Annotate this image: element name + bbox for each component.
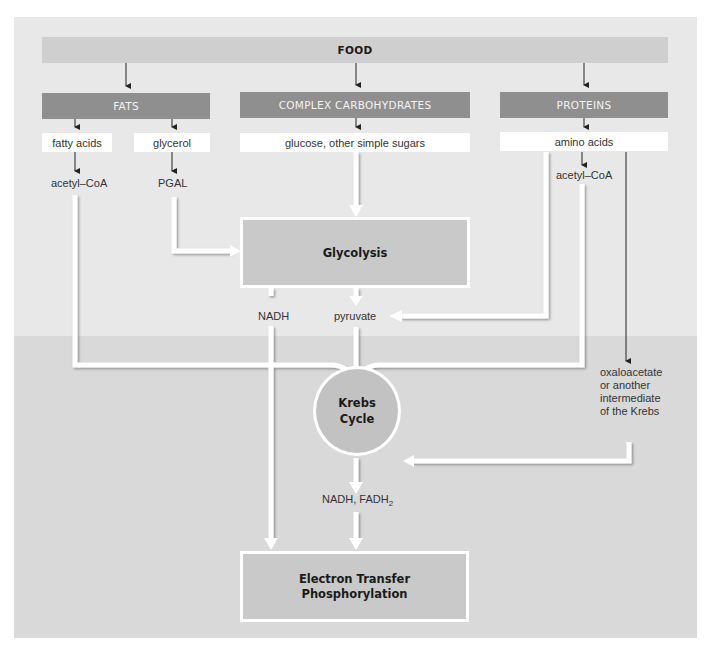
amino-acids-box: amino acids <box>500 132 668 151</box>
fat-acetyl-coa-label: acetyl–CoA <box>51 177 107 189</box>
glycerol-box: glycerol <box>134 133 210 152</box>
nadh-fadh2-label: NADH, FADH2 <box>322 493 393 508</box>
food-bar: FOOD <box>42 37 668 63</box>
pgal-label: PGAL <box>158 177 187 189</box>
oxaloacetate-line-1: oxaloacetate <box>600 366 662 379</box>
etp-label-line-1: Electron Transfer <box>299 572 410 587</box>
fats-category: FATS <box>42 93 210 119</box>
glycolysis-box: Glycolysis <box>240 217 470 288</box>
oxaloacetate-line-2: or another <box>600 379 662 392</box>
etp-label-line-2: Phosphorylation <box>301 587 407 602</box>
pyruvate-label: pyruvate <box>334 310 376 322</box>
fatty-acids-box: fatty acids <box>42 133 112 152</box>
oxaloacetate-line-4: of the Krebs <box>600 405 662 418</box>
krebs-label-line-2: Cycle <box>340 411 375 427</box>
oxaloacetate-label: oxaloacetate or another intermediate of … <box>600 366 662 418</box>
electron-transfer-phosphorylation-box: Electron Transfer Phosphorylation <box>240 551 469 622</box>
nadh-label: NADH <box>258 310 289 322</box>
white-arrows <box>75 152 629 540</box>
krebs-cycle-circle: Krebs Cycle <box>313 366 401 456</box>
simple-sugars-box: glucose, other simple sugars <box>240 133 470 152</box>
krebs-label-line-1: Krebs <box>338 395 375 411</box>
complex-carbohydrates-category: COMPLEX CARBOHYDRATES <box>240 92 470 118</box>
oxaloacetate-line-3: intermediate <box>600 392 662 405</box>
protein-acetyl-coa-label: acetyl–CoA <box>556 169 612 181</box>
nadh-fadh2-text: NADH, FADH <box>322 493 389 505</box>
fadh2-subscript: 2 <box>389 499 393 508</box>
proteins-category: PROTEINS <box>500 92 668 118</box>
